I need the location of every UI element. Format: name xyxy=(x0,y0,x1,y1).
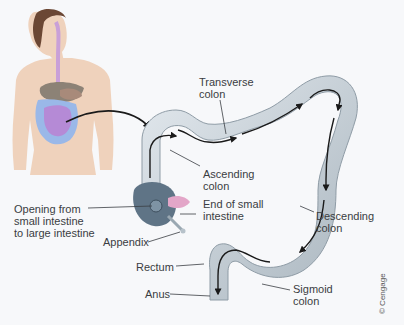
label-line: small intestine xyxy=(14,215,95,227)
colon-diagram: Transverse colon Ascending colon End of … xyxy=(0,0,404,325)
label-appendix: Appendix xyxy=(103,236,149,248)
label-opening: Opening from small intestine to large in… xyxy=(14,203,95,239)
label-line: colon xyxy=(316,222,374,234)
label-anus: Anus xyxy=(145,288,170,300)
label-line: colon xyxy=(203,180,254,192)
copyright-credit: © Cengage xyxy=(378,273,387,314)
label-line: to large intestine xyxy=(14,227,95,239)
label-descending-colon: Descending colon xyxy=(316,210,374,234)
label-line: colon xyxy=(199,88,254,100)
diagram-artwork xyxy=(0,0,404,325)
label-end-small-intestine: End of small intestine xyxy=(203,198,264,222)
label-line: Rectum xyxy=(136,261,174,273)
label-line: colon xyxy=(293,295,333,307)
label-line: Sigmoid xyxy=(293,283,333,295)
label-sigmoid-colon: Sigmoid colon xyxy=(293,283,333,307)
label-ascending-colon: Ascending colon xyxy=(203,168,254,192)
label-transverse-colon: Transverse colon xyxy=(199,76,254,100)
label-line: End of small xyxy=(203,198,264,210)
torso-inset xyxy=(13,9,114,175)
label-line: Anus xyxy=(145,288,170,300)
label-line: Appendix xyxy=(103,236,149,248)
label-line: Transverse xyxy=(199,76,254,88)
label-line: Descending xyxy=(316,210,374,222)
label-line: Opening from xyxy=(14,203,95,215)
label-line: intestine xyxy=(203,210,264,222)
label-rectum: Rectum xyxy=(136,261,174,273)
label-line: Ascending xyxy=(203,168,254,180)
